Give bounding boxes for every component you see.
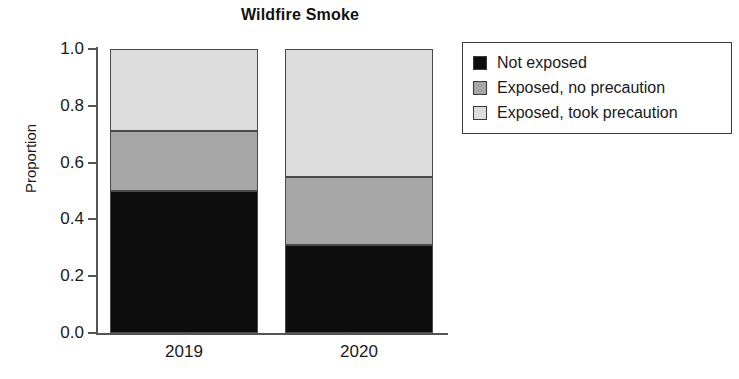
bar-segment [285, 245, 433, 333]
x-tick-label: 2020 [299, 342, 419, 362]
plot-area [96, 49, 446, 333]
bar-segment [110, 49, 258, 131]
y-tick-label: 0.2 [40, 267, 84, 284]
y-tick-label-wrap: 0.6 [30, 154, 84, 172]
y-tick-label-wrap: 1.0 [30, 40, 84, 58]
legend-label: Not exposed [497, 55, 587, 71]
x-axis-spine [96, 333, 448, 335]
legend-entry: Not exposed [473, 50, 721, 75]
bar-stack-2019 [110, 49, 258, 333]
legend-label: Exposed, no precaution [497, 80, 665, 96]
bar-segment [110, 191, 258, 333]
legend-label: Exposed, took precaution [497, 105, 678, 121]
bar-segment [110, 131, 258, 191]
bar-segment [285, 49, 433, 177]
legend-swatch-icon [473, 56, 487, 70]
y-tick-label: 0.0 [40, 324, 84, 341]
y-tick-label: 0.8 [40, 97, 84, 114]
y-tick-label-wrap: 0.4 [30, 210, 84, 228]
bar-segment [285, 177, 433, 245]
wildfire-smoke-chart-figure: Wildfire Smoke Proportion 1.00.80.60.40.… [0, 0, 739, 379]
x-tick-label: 2019 [124, 342, 244, 362]
chart-legend: Not exposedExposed, no precautionExposed… [462, 42, 732, 134]
bar-stack-2020 [285, 49, 433, 333]
y-tick-label: 0.4 [40, 210, 84, 227]
legend-entry: Exposed, no precaution [473, 75, 721, 100]
y-tick-label-wrap: 0.8 [30, 97, 84, 115]
legend-swatch-icon [473, 106, 487, 120]
legend-swatch-icon [473, 81, 487, 95]
page-title: Wildfire Smoke [180, 6, 420, 24]
y-tick-label-wrap: 0.0 [30, 324, 84, 342]
legend-entry: Exposed, took precaution [473, 100, 721, 125]
y-tick-label-wrap: 0.2 [30, 267, 84, 285]
y-tick-label: 1.0 [40, 40, 84, 57]
y-tick-label: 0.6 [40, 154, 84, 171]
